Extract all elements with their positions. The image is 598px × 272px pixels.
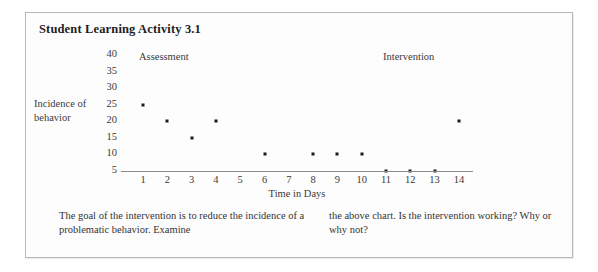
y-axis-tick-10: 10 <box>99 147 117 158</box>
data-point <box>457 120 460 123</box>
data-point <box>142 103 145 106</box>
x-axis-tick-11: 11 <box>376 174 396 185</box>
x-axis-tick-1: 1 <box>133 174 153 185</box>
x-axis-tick-14: 14 <box>449 174 469 185</box>
y-axis-tick-5: 5 <box>99 164 117 175</box>
x-axis-tick-6: 6 <box>255 174 275 185</box>
prompt-text: The goal of the intervention is to reduc… <box>59 209 559 237</box>
data-point <box>336 153 339 156</box>
data-point <box>214 120 217 123</box>
data-point <box>312 153 315 156</box>
prompt-column-left: The goal of the intervention is to reduc… <box>59 209 307 237</box>
y-axis-label-line-1: Incidence of <box>34 97 106 111</box>
x-axis-tick-3: 3 <box>182 174 202 185</box>
data-point <box>166 120 169 123</box>
x-axis-tick-12: 12 <box>400 174 420 185</box>
x-axis-tick-7: 7 <box>279 174 299 185</box>
y-axis-tick-30: 30 <box>99 81 117 92</box>
y-axis-label: Incidence of behavior <box>34 97 106 124</box>
y-axis-tick-20: 20 <box>99 114 117 125</box>
data-point <box>360 153 363 156</box>
x-axis-line <box>121 171 473 172</box>
data-point <box>263 153 266 156</box>
y-axis-tick-40: 40 <box>99 48 117 59</box>
y-axis-tick-35: 35 <box>99 65 117 76</box>
x-axis-tick-8: 8 <box>303 174 323 185</box>
prompt-column-right: the above chart. Is the intervention wor… <box>329 209 559 237</box>
x-axis-tick-2: 2 <box>157 174 177 185</box>
y-axis-tick-25: 25 <box>99 98 117 109</box>
plot-area <box>121 55 471 171</box>
x-axis-tick-5: 5 <box>230 174 250 185</box>
x-axis-tick-13: 13 <box>425 174 445 185</box>
x-axis-tick-10: 10 <box>352 174 372 185</box>
data-point <box>190 136 193 139</box>
x-axis-tick-4: 4 <box>206 174 226 185</box>
y-axis-tick-15: 15 <box>99 131 117 142</box>
x-axis-tick-9: 9 <box>327 174 347 185</box>
activity-card: Student Learning Activity 3.1 Assessment… <box>25 12 573 258</box>
y-axis-label-line-2: behavior <box>34 111 106 125</box>
x-axis-label: Time in Days <box>121 188 473 199</box>
